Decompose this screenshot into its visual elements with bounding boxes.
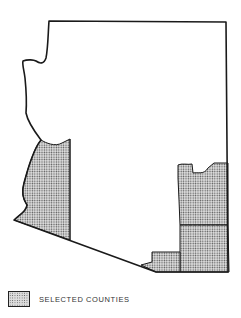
county-southeast-north-selected [178, 163, 228, 225]
legend-swatch-stippled [8, 291, 30, 307]
state-map [0, 0, 241, 318]
legend-label: SELECTED COUNTIES [39, 295, 130, 304]
county-southeast-south-selected [180, 225, 229, 272]
map-legend: SELECTED COUNTIES [8, 291, 130, 307]
